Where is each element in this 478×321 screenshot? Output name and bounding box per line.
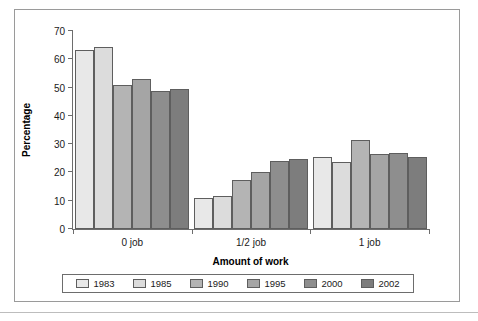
legend-label: 1990: [207, 278, 228, 289]
bar-2000-0-job[interactable]: [151, 91, 170, 229]
y-axis-tick: [68, 115, 73, 116]
y-axis-tick-label: 40: [54, 110, 65, 121]
chart-legend: 198319851990199520002002: [62, 274, 414, 293]
legend-swatch-icon: [304, 279, 317, 288]
x-axis-tick: [310, 229, 311, 234]
x-axis-tick: [73, 229, 74, 234]
legend-swatch-icon: [133, 279, 146, 288]
y-axis-tick: [68, 30, 73, 31]
x-axis-category-label: 1/2 job: [236, 237, 266, 248]
y-axis-tick-label: 10: [54, 195, 65, 206]
plot-area: 0102030405060700 job1/2 job1 job: [72, 31, 429, 230]
bar-1983-1-2-job[interactable]: [194, 198, 213, 229]
y-axis-tick-label: 0: [59, 224, 65, 235]
x-axis-title: Amount of work: [72, 256, 429, 267]
bar-2002-0-job[interactable]: [170, 89, 189, 229]
y-axis-title: Percentage: [21, 103, 32, 157]
legend-swatch-icon: [190, 279, 203, 288]
x-axis-tick: [192, 229, 193, 234]
x-axis-tick: [429, 229, 430, 234]
legend-label: 2000: [321, 278, 342, 289]
bar-2002-1-2-job[interactable]: [289, 159, 308, 229]
y-axis-tick: [68, 171, 73, 172]
bar-1995-1-job[interactable]: [370, 154, 389, 229]
y-axis-tick-label: 20: [54, 167, 65, 178]
bar-1985-1-job[interactable]: [332, 162, 351, 229]
bar-group: [192, 31, 311, 229]
y-axis-tick-label: 60: [54, 54, 65, 65]
y-axis-tick: [68, 200, 73, 201]
y-axis-tick-label: 70: [54, 26, 65, 37]
legend-item-2000[interactable]: 2000: [304, 278, 342, 289]
bar-2000-1-2-job[interactable]: [270, 161, 289, 229]
bar-group: [310, 31, 429, 229]
legend-item-1990[interactable]: 1990: [190, 278, 228, 289]
legend-label: 2002: [378, 278, 399, 289]
bar-2002-1-job[interactable]: [408, 157, 427, 229]
bar-1990-1-2-job[interactable]: [232, 180, 251, 229]
legend-item-1985[interactable]: 1985: [133, 278, 171, 289]
y-axis-tick-label: 50: [54, 82, 65, 93]
legend-item-1983[interactable]: 1983: [76, 278, 114, 289]
bar-group: [73, 31, 192, 229]
x-axis-category-label: 0 job: [121, 237, 143, 248]
legend-item-1995[interactable]: 1995: [247, 278, 285, 289]
bar-1985-1-2-job[interactable]: [213, 196, 232, 229]
legend-swatch-icon: [247, 279, 260, 288]
bar-1983-1-job[interactable]: [313, 157, 332, 229]
bar-1995-0-job[interactable]: [132, 79, 151, 229]
y-axis-tick: [68, 87, 73, 88]
bar-1990-0-job[interactable]: [113, 85, 132, 229]
bar-groups: [73, 31, 429, 229]
legend-swatch-icon: [76, 279, 89, 288]
y-axis-tick: [68, 58, 73, 59]
bar-1990-1-job[interactable]: [351, 140, 370, 229]
y-axis-tick-label: 30: [54, 139, 65, 150]
bar-1983-0-job[interactable]: [75, 50, 94, 229]
bar-1985-0-job[interactable]: [94, 47, 113, 229]
legend-label: 1995: [264, 278, 285, 289]
legend-label: 1985: [150, 278, 171, 289]
bar-2000-1-job[interactable]: [389, 153, 408, 229]
legend-label: 1983: [93, 278, 114, 289]
page-divider-rule: [0, 312, 478, 313]
y-axis-tick: [68, 143, 73, 144]
legend-item-2002[interactable]: 2002: [361, 278, 399, 289]
x-axis-category-label: 1 job: [359, 237, 381, 248]
chart-screenshot: Percentage 0102030405060700 job1/2 job1 …: [0, 0, 478, 321]
bar-1995-1-2-job[interactable]: [251, 172, 270, 229]
legend-swatch-icon: [361, 279, 374, 288]
